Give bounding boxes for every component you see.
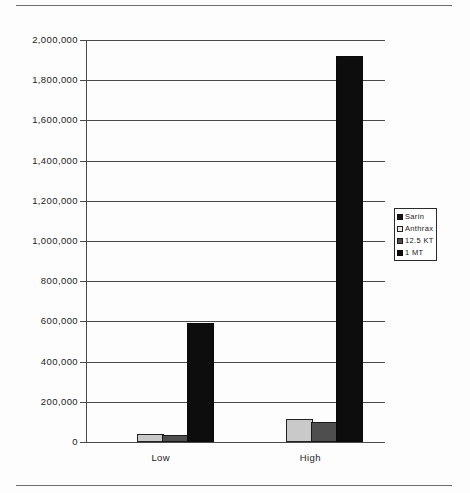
y-axis-tick-mark bbox=[80, 362, 86, 363]
legend-label-sarin: Sarin bbox=[405, 213, 424, 221]
y-axis-tick-label: 2,000,000 bbox=[4, 35, 78, 45]
x-axis-label-low: Low bbox=[131, 453, 191, 463]
y-axis-tick-label: 0 bbox=[4, 437, 78, 447]
legend-swatch-1mt-icon bbox=[397, 250, 403, 256]
bar-high-anthrax bbox=[286, 419, 313, 442]
y-axis-tick-mark bbox=[80, 402, 86, 403]
bar-high-1-mt bbox=[336, 56, 363, 442]
y-axis-tick-label: 400,000 bbox=[4, 357, 78, 367]
bar-low-1-mt bbox=[187, 323, 214, 442]
y-axis-tick-label: 200,000 bbox=[4, 397, 78, 407]
legend-item-1mt[interactable]: 1 MT bbox=[397, 247, 436, 259]
bar-low-12-5-kt bbox=[162, 435, 189, 442]
y-axis-tick-mark bbox=[80, 40, 86, 41]
legend-item-sarin[interactable]: Sarin bbox=[397, 211, 436, 223]
gridline bbox=[86, 442, 385, 443]
y-axis-tick-mark bbox=[80, 201, 86, 202]
x-axis-label-high: High bbox=[280, 453, 340, 463]
legend-item-anthrax[interactable]: Anthrax bbox=[397, 223, 436, 235]
y-axis-tick-label: 1,400,000 bbox=[4, 156, 78, 166]
page-frame-bottom-rule bbox=[16, 485, 452, 486]
y-axis-tick-mark bbox=[80, 120, 86, 121]
legend-label-125kt: 12.5 KT bbox=[405, 237, 434, 245]
x-axis-category-labels: LowHigh bbox=[86, 453, 385, 469]
chart-page: 0200,000400,000600,000800,0001,000,0001,… bbox=[0, 0, 470, 493]
y-axis-tick-mark bbox=[80, 241, 86, 242]
y-axis-tick-label: 1,000,000 bbox=[4, 236, 78, 246]
chart-legend[interactable]: Sarin Anthrax 12.5 KT 1 MT bbox=[394, 208, 437, 261]
legend-swatch-sarin-icon bbox=[397, 214, 403, 220]
y-axis-tick-label: 1,200,000 bbox=[4, 196, 78, 206]
y-axis-tick-label: 800,000 bbox=[4, 276, 78, 286]
legend-label-1mt: 1 MT bbox=[405, 249, 423, 257]
legend-swatch-anthrax-icon bbox=[397, 226, 403, 232]
y-axis-tick-label: 600,000 bbox=[4, 316, 78, 326]
y-axis-tick-mark bbox=[80, 321, 86, 322]
y-axis-tick-mark bbox=[80, 161, 86, 162]
y-axis-tick-label: 1,600,000 bbox=[4, 115, 78, 125]
y-axis-tick-label: 1,800,000 bbox=[4, 75, 78, 85]
y-axis-tick-mark bbox=[80, 80, 86, 81]
bars-layer bbox=[87, 40, 385, 442]
legend-item-125kt[interactable]: 12.5 KT bbox=[397, 235, 436, 247]
y-axis-tick-mark bbox=[80, 281, 86, 282]
page-frame-top-rule bbox=[16, 5, 452, 6]
bar-low-anthrax bbox=[137, 434, 164, 442]
legend-swatch-125kt-icon bbox=[397, 238, 403, 244]
y-axis-tick-labels: 0200,000400,000600,000800,0001,000,0001,… bbox=[0, 0, 78, 493]
legend-label-anthrax: Anthrax bbox=[405, 225, 433, 233]
bar-high-12-5-kt bbox=[311, 422, 338, 442]
y-axis-tick-mark bbox=[80, 442, 86, 443]
